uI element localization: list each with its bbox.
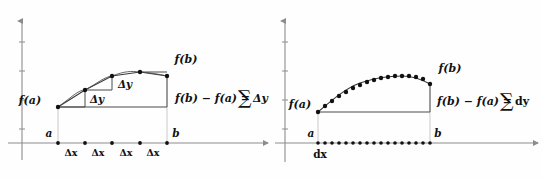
right-tick-dot xyxy=(414,141,418,145)
left-delta-y-lower-label: Δy xyxy=(89,93,105,105)
right-tick-dot xyxy=(372,141,376,145)
right-tick-dot xyxy=(400,141,404,145)
left-tick-dot xyxy=(56,141,60,145)
right-axis-tick-dots xyxy=(316,141,432,145)
right-curve-dot xyxy=(351,86,355,90)
differential-panel: f(a) f(b) f(b) − f(a) = ∑ dy a b dx xyxy=(275,21,538,162)
right-curve-dot xyxy=(400,74,404,78)
right-tick-dot xyxy=(407,141,411,145)
right-tick-dot xyxy=(428,141,432,145)
right-curve-dot xyxy=(393,74,397,78)
left-a-label: a xyxy=(46,127,53,139)
figure-root: f(a) f(b) Δy Δy f(b) − f(a) = ∑ Δy a b Δ… xyxy=(0,0,543,178)
right-curve-dot xyxy=(379,76,383,80)
right-curve-dot xyxy=(421,77,425,81)
right-f-b-label: f(b) xyxy=(438,62,462,75)
right-curve-dot xyxy=(414,75,418,79)
left-f-a-label: f(a) xyxy=(18,94,41,107)
left-equation-sigma: ∑ xyxy=(238,86,252,108)
right-equation-rhs: dy xyxy=(515,95,530,108)
right-tick-dot xyxy=(316,141,320,145)
right-curve-dot xyxy=(344,90,348,94)
right-tick-dot xyxy=(386,141,390,145)
left-tick-dot xyxy=(83,141,87,145)
left-delta-x-label-4: Δx xyxy=(146,147,159,158)
right-b-label: b xyxy=(434,127,441,139)
left-equation-rhs: Δy xyxy=(252,92,270,105)
right-dx-label: dx xyxy=(313,148,327,160)
left-delta-y-upper-label: Δy xyxy=(117,78,133,90)
left-node-1 xyxy=(83,88,87,92)
left-delta-x-label-3: Δx xyxy=(119,147,132,158)
left-tick-dot xyxy=(110,141,114,145)
right-f-a-label: f(a) xyxy=(288,98,311,111)
diagram-canvas: f(a) f(b) Δy Δy f(b) − f(a) = ∑ Δy a b Δ… xyxy=(0,0,543,178)
right-curve-dots xyxy=(316,74,432,114)
right-curve-dot xyxy=(330,99,334,103)
left-node-a xyxy=(56,105,60,109)
right-tick-dot xyxy=(393,141,397,145)
right-curve-dot xyxy=(407,74,411,78)
left-tick-dot xyxy=(138,141,142,145)
right-curve-dot xyxy=(337,94,341,98)
right-curve-dot xyxy=(372,78,376,82)
left-node-b xyxy=(165,74,169,78)
left-node-2 xyxy=(110,74,114,78)
right-tick-dot xyxy=(351,141,355,145)
left-delta-x-label-2: Δx xyxy=(91,147,104,158)
left-b-label: b xyxy=(172,127,179,139)
right-curve-dot xyxy=(316,110,320,114)
right-curve-dot xyxy=(428,82,432,86)
right-tick-dot xyxy=(365,141,369,145)
right-tick-dot xyxy=(323,141,327,145)
left-delta-x-label-1: Δx xyxy=(64,147,77,158)
right-equation-sigma: ∑ xyxy=(500,89,514,111)
right-tick-dot xyxy=(330,141,334,145)
right-tick-dot xyxy=(337,141,341,145)
left-tick-dot xyxy=(165,141,169,145)
right-curve-dot xyxy=(323,104,327,108)
discrete-panel: f(a) f(b) Δy Δy f(b) − f(a) = ∑ Δy a b Δ… xyxy=(8,21,270,160)
right-a-label: a xyxy=(308,127,315,139)
right-tick-dot xyxy=(358,141,362,145)
right-curve-dot xyxy=(365,80,369,84)
left-f-b-label: f(b) xyxy=(174,53,198,66)
right-tick-dot xyxy=(379,141,383,145)
right-curve-dot xyxy=(358,83,362,87)
right-tick-dot xyxy=(344,141,348,145)
right-curve-dot xyxy=(386,75,390,79)
right-tick-dot xyxy=(421,141,425,145)
left-node-3 xyxy=(138,70,142,74)
